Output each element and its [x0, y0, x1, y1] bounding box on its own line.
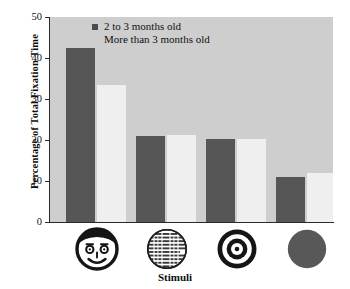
bar-group-face — [66, 17, 128, 222]
bar-plain-circle-2to3months — [276, 177, 305, 222]
bar-group-newsprint — [136, 17, 198, 222]
legend-swatch-dark-icon — [92, 24, 98, 30]
bar-group-plain-circle — [276, 17, 333, 222]
legend-entry-2to3months: 2 to 3 months old — [92, 20, 272, 33]
y-tick-label-50: 50 — [2, 12, 42, 23]
plot-area: 2 to 3 months old More than 3 months old — [50, 17, 333, 222]
bar-face-over3months — [97, 85, 126, 222]
legend-label-over3months: More than 3 months old — [104, 33, 210, 46]
stimuli-icons-row — [50, 226, 333, 272]
bar-newsprint-over3months — [167, 135, 196, 222]
bar-face-2to3months — [66, 48, 95, 222]
legend-entry-over3months: More than 3 months old — [92, 33, 272, 46]
bar-bullseye-2to3months — [206, 139, 235, 222]
y-tick-label-20: 20 — [2, 135, 42, 146]
y-tick-label-10: 10 — [2, 176, 42, 187]
bar-chart-figure: Percentage of Total Fixation Time 50 40 … — [0, 0, 350, 289]
y-tick-label-40: 40 — [2, 53, 42, 64]
bar-bullseye-over3months — [237, 139, 266, 222]
chart-legend: 2 to 3 months old More than 3 months old — [92, 20, 272, 46]
x-axis-line — [49, 222, 334, 223]
bullseye-target-icon — [214, 226, 260, 272]
legend-swatch-light-icon — [92, 37, 98, 43]
smiling-face-icon — [74, 226, 120, 272]
y-tick-label-30: 30 — [2, 94, 42, 105]
x-axis-title: Stimuli — [0, 271, 350, 283]
y-tick-label-0: 0 — [2, 217, 42, 228]
bar-plain-circle-over3months — [307, 173, 333, 222]
bar-newsprint-2to3months — [136, 136, 165, 222]
newsprint-circle-icon — [144, 226, 190, 272]
bar-group-bullseye — [206, 17, 268, 222]
legend-label-2to3months: 2 to 3 months old — [104, 20, 181, 33]
solid-circle-icon — [284, 226, 330, 272]
